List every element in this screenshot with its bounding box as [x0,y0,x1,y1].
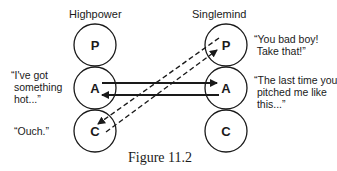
singlemind-p-label: P [216,38,236,53]
figure-caption: Figure 11.2 [128,152,192,164]
arrow-child-to-parent [106,50,217,132]
singlemind-heading: Singlemind [192,8,246,20]
highpower-p-label: P [85,38,105,53]
highpower-heading: Highpower [69,8,122,20]
singlemind-adult-quote: “The last time you pitched me like this.… [254,74,337,110]
highpower-a-label: A [85,81,105,96]
highpower-adult-quote: “I've got something hot...” [11,69,62,105]
highpower-c-label: C [85,124,105,139]
singlemind-parent-quote: “You bad boy! Take that!” [254,33,318,57]
arrow-parent-to-child [98,38,219,124]
singlemind-c-label: C [216,124,236,139]
highpower-child-quote: “Ouch.” [14,125,49,137]
singlemind-a-label: A [216,81,236,96]
